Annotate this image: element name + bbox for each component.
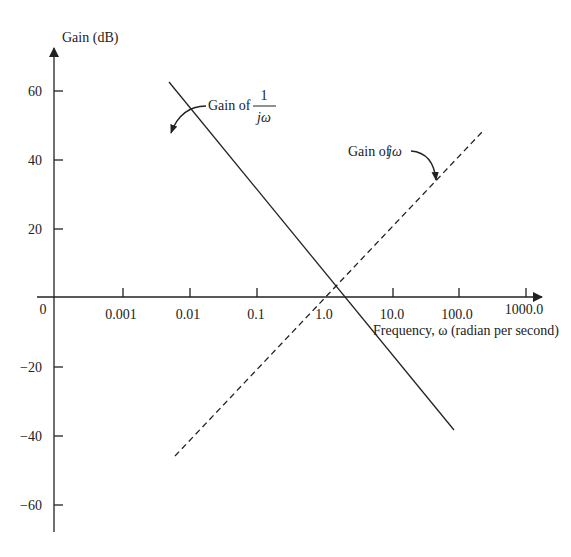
x-tick-1.0: 1.0 [315, 307, 333, 322]
y-tick-20: 20 [28, 222, 42, 237]
annotation-gain-inverse-j-omega: Gain of 1 jω [208, 88, 276, 125]
annotation-2-expr: jω [386, 144, 402, 159]
series-inverse-j-omega [169, 82, 454, 430]
series-j-omega [175, 131, 483, 456]
annotation-arrow-1 [171, 106, 206, 133]
y-tick-minus-60: −60 [20, 498, 42, 513]
x-axis-label: Frequency, ω (radian per second) [373, 323, 559, 339]
origin-label: 0 [40, 302, 47, 317]
y-tick-minus-20: −20 [20, 360, 42, 375]
annotation-arrow-2 [411, 151, 436, 180]
annotation-1-numerator: 1 [261, 88, 268, 103]
x-tick-0.001: 0.001 [105, 307, 137, 322]
x-tick-0.1: 0.1 [247, 307, 265, 322]
x-axis [37, 288, 542, 297]
annotation-2-prefix: Gain of [348, 144, 391, 159]
annotation-1-prefix: Gain of [208, 98, 251, 113]
annotation-gain-j-omega: Gain of jω [348, 144, 402, 159]
annotation-1-denominator: jω [255, 110, 271, 125]
y-tick-60: 60 [28, 84, 42, 99]
x-tick-1000.0: 1000.0 [505, 302, 544, 317]
bode-plot: Gain (dB) Frequency, ω (radian per secon… [0, 0, 571, 557]
y-tick-40: 40 [28, 153, 42, 168]
x-tick-10.0: 10.0 [380, 307, 405, 322]
y-tick-minus-40: −40 [20, 429, 42, 444]
x-tick-100.0: 100.0 [441, 307, 473, 322]
y-axis [54, 48, 63, 532]
x-tick-0.01: 0.01 [176, 307, 201, 322]
y-axis-label: Gain (dB) [62, 30, 119, 46]
